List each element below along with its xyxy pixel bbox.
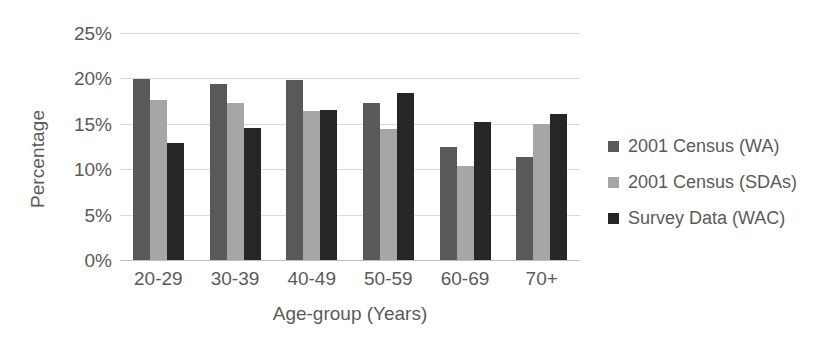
bar-group: [503, 33, 580, 260]
x-axis-tick-label: 20-29: [120, 268, 197, 290]
bar[interactable]: [457, 166, 474, 260]
bar[interactable]: [397, 93, 414, 260]
bar[interactable]: [440, 147, 457, 261]
bar[interactable]: [363, 103, 380, 260]
x-axis-tick-label: 40-49: [273, 268, 350, 290]
bar[interactable]: [516, 157, 533, 261]
bar[interactable]: [533, 124, 550, 260]
legend-item[interactable]: 2001 Census (SDAs): [608, 164, 808, 200]
bar[interactable]: [550, 114, 567, 260]
bar-group: [120, 33, 197, 260]
bar-group: [273, 33, 350, 260]
legend-swatch-icon: [608, 177, 619, 188]
bar-group: [350, 33, 427, 260]
legend-item[interactable]: Survey Data (WAC): [608, 200, 808, 236]
bar[interactable]: [380, 129, 397, 260]
legend-swatch-icon: [608, 213, 619, 224]
x-axis-tick-label: 70+: [503, 268, 580, 290]
bar[interactable]: [320, 110, 337, 260]
y-axis-tick-label: 5%: [52, 206, 112, 225]
axis-baseline: [120, 260, 580, 261]
bar[interactable]: [133, 79, 150, 260]
bar[interactable]: [303, 111, 320, 260]
legend-item[interactable]: 2001 Census (WA): [608, 128, 808, 164]
y-axis-tick-label: 10%: [52, 160, 112, 179]
y-axis-tick-label: 0%: [52, 251, 112, 270]
legend: 2001 Census (WA)2001 Census (SDAs)Survey…: [608, 128, 808, 236]
bar[interactable]: [167, 143, 184, 260]
x-axis-tick-label: 60-69: [427, 268, 504, 290]
bar-group: [427, 33, 504, 260]
legend-label: 2001 Census (SDAs): [628, 172, 797, 193]
x-axis-tick-label: 50-59: [350, 268, 427, 290]
y-axis-tick-label: 25%: [52, 24, 112, 43]
bar-group: [197, 33, 274, 260]
bar-chart: Percentage 0%5%10%15%20%25% 20-2930-3940…: [0, 0, 814, 361]
bar[interactable]: [244, 128, 261, 260]
x-axis-title: Age-group (Years): [120, 303, 580, 325]
bar[interactable]: [150, 100, 167, 260]
bar[interactable]: [474, 122, 491, 260]
legend-label: Survey Data (WAC): [628, 208, 785, 229]
x-axis-tick-labels: 20-2930-3940-4950-5960-6970+: [120, 268, 580, 290]
y-axis-title: Percentage: [27, 69, 49, 249]
bar[interactable]: [286, 80, 303, 260]
bar[interactable]: [227, 103, 244, 260]
x-axis-tick-label: 30-39: [197, 268, 274, 290]
legend-swatch-icon: [608, 141, 619, 152]
plot-area: [120, 33, 580, 260]
y-axis-tick-labels: 0%5%10%15%20%25%: [52, 0, 112, 361]
legend-label: 2001 Census (WA): [628, 136, 779, 157]
y-axis-tick-label: 20%: [52, 69, 112, 88]
bar-groups: [120, 33, 580, 260]
y-axis-tick-label: 15%: [52, 115, 112, 134]
bar[interactable]: [210, 84, 227, 260]
